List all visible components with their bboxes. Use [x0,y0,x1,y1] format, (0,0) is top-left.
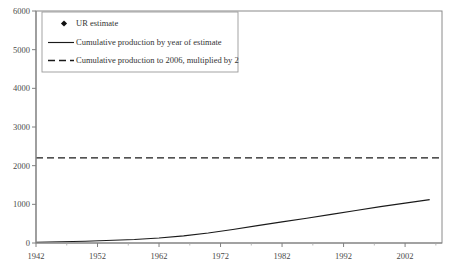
y-tick-label: 0 [26,238,30,248]
x-tick-label: 1972 [212,251,229,261]
x-tick-label: 1952 [89,251,106,261]
y-tick-label: 1000 [13,199,30,209]
chart-container: 0100020003000400050006000194219521962197… [0,0,454,275]
y-tick-label: 6000 [13,6,30,16]
x-tick-label: 1962 [151,251,168,261]
y-tick-label: 4000 [13,83,30,93]
x-tick-label: 1942 [28,251,45,261]
y-tick-label: 2000 [13,161,30,171]
x-tick-label: 1992 [335,251,352,261]
legend-item-label: Cumulative production by year of estimat… [76,37,222,47]
chart-legend: UR estimateCumulative production by year… [42,12,239,72]
y-tick-label: 3000 [13,122,30,132]
legend-item-label: UR estimate [76,18,118,28]
scatter-chart: 0100020003000400050006000194219521962197… [0,0,454,275]
y-tick-label: 5000 [13,45,30,55]
x-tick-label: 2002 [397,251,414,261]
cumulative-production-line [36,200,430,243]
legend-item-label: Cumulative production to 2006, multiplie… [76,55,239,65]
x-tick-label: 1982 [274,251,291,261]
legend-item: Cumulative production to 2006, multiplie… [48,55,239,65]
